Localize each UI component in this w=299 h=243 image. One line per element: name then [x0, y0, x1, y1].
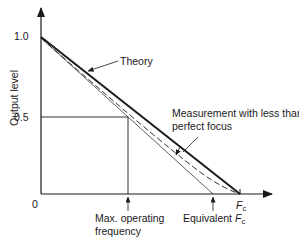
origin-label: 0: [32, 198, 38, 210]
focus-gap-arrow: [176, 147, 180, 155]
theory-pointer: [88, 61, 118, 71]
max-freq-label-line1: Max. operating: [95, 212, 164, 224]
equivalent-text: Equivalent: [183, 212, 235, 224]
measurement-pointer: [183, 137, 198, 152]
tick-0-5: 0.5: [14, 111, 29, 123]
equivalent-fc-subscript: c: [241, 217, 245, 226]
measurement-label-line1: Measurement with less than: [172, 107, 299, 119]
theory-label: Theory: [120, 55, 153, 67]
diagram-canvas: [0, 0, 299, 243]
equivalent-fc-label: Equivalent Fc: [183, 212, 245, 228]
measurement-label-line2: perfect focus: [172, 120, 232, 132]
max-freq-label-line2: frequency: [95, 225, 141, 237]
tick-1-0: 1.0: [14, 30, 29, 42]
